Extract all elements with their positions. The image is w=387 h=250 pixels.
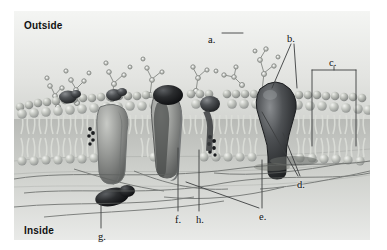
cytoplasm-background [14,119,370,240]
protein-left-a-lobe [71,90,81,98]
channel-protein-f-cap [153,85,183,105]
callout-label-c: c. [329,58,336,69]
callout-label-f: f. [175,215,181,226]
protein-left-b-lobe [117,88,127,96]
callout-label-h: h. [196,215,204,226]
callout-label-d: d. [297,180,305,191]
protein-shadow-2 [254,163,290,171]
orientation-label-outside: Outside [24,21,63,31]
callout-label-g: g. [98,232,106,243]
carrier-protein-left [97,104,128,184]
integral-protein-d-highlight [263,90,277,100]
figure-root: Outside Inside a. b. c. d. e. f. h. g. [0,0,387,250]
callout-label-b: b. [287,34,295,45]
membrane-illustration [14,11,370,240]
callout-label-e: e. [259,212,266,223]
orientation-label-inside: Inside [24,226,54,236]
small-protein-mid [200,96,220,112]
callout-label-a: a. [208,35,215,46]
